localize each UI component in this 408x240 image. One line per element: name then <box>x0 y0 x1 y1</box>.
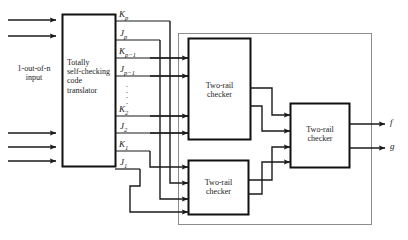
signal-sub: p−1 <box>125 51 136 58</box>
signal-label-K1: K1 <box>119 139 128 151</box>
signal-sub: p <box>124 33 127 40</box>
checker-label-line1: Two-rail <box>189 178 248 187</box>
translator-label-line4: translator <box>67 86 110 95</box>
signal-label-Kp-1: Kp−1 <box>119 46 136 58</box>
checker-label-line1: Two-rail <box>291 125 349 134</box>
checker-label-line2: checker <box>189 90 250 99</box>
right-two-rail-checker-label: Two-rail checker <box>291 125 349 143</box>
signal-sub: p−1 <box>124 69 135 76</box>
input-arrows <box>8 20 56 161</box>
signal-label-Jp-1: Jp−1 <box>120 64 135 76</box>
checker-label-line2: checker <box>291 134 349 143</box>
signal-label-K2: K2 <box>119 104 128 116</box>
checker-label-line2: checker <box>189 187 248 196</box>
input-label-line1: 1-out-of-n <box>18 64 51 73</box>
output-label-f: f <box>390 117 393 127</box>
signal-sub: 1 <box>124 162 127 169</box>
output-arrows <box>349 124 385 148</box>
translator-label-line3: code <box>67 76 110 85</box>
signal-sub: 2 <box>124 126 127 133</box>
upper-to-right-links <box>250 88 290 131</box>
signal-sub: 1 <box>125 144 128 151</box>
input-label-line2: input <box>26 73 42 82</box>
upper-checker-upper-inputs <box>150 58 188 76</box>
signal-ellipsis: · · · · <box>122 84 132 106</box>
upper-two-rail-checker-label: Two-rail checker <box>189 81 250 99</box>
lower-two-rail-checker-label: Two-rail checker <box>189 178 248 196</box>
k1-j1-routing <box>130 151 188 212</box>
translator-label-line2: self-checking <box>67 67 110 76</box>
diagram-canvas <box>0 0 408 240</box>
signal-sub: 2 <box>125 109 128 116</box>
translator-label-line1: Totally <box>67 58 110 67</box>
translator-label: Totally self-checking code translator <box>67 58 110 95</box>
kp-jp-routing <box>160 21 188 199</box>
input-label: 1-out-of-n input <box>6 64 62 82</box>
signal-sub: p <box>125 14 128 21</box>
lower-to-right-links <box>248 147 290 194</box>
signal-label-J2: J2 <box>120 121 127 133</box>
upper-checker-lower-inputs <box>150 116 188 133</box>
figure-block-diagram: 1-out-of-n input Totally self-checking c… <box>0 0 408 240</box>
checker-label-line1: Two-rail <box>189 81 250 90</box>
signal-label-J1: J1 <box>120 157 127 169</box>
output-label-g: g <box>390 141 395 151</box>
signal-label-Jp: Jp <box>120 28 127 40</box>
signal-label-Kp: Kp <box>119 9 128 21</box>
